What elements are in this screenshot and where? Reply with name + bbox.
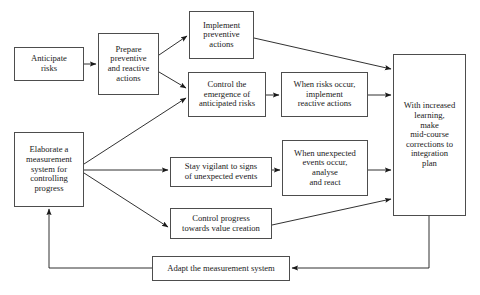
node-control-progress-towards-value-creation[interactable]: Control progress towards value creation xyxy=(170,208,272,239)
node-label-control-emergence-of-anticipated-risks: Control the emergence of anticipated ris… xyxy=(189,80,265,109)
node-label-when-unexpected-events-occur-analyse-and-react: When unexpected events occur, analyse an… xyxy=(283,149,367,188)
edge-with-increased-learning-make-mid-course-corrections-to-adapt-the-measurement-system xyxy=(292,216,429,268)
node-when-unexpected-events-occur-analyse-and-react[interactable]: When unexpected events occur, analyse an… xyxy=(282,140,368,196)
node-label-elaborate-a-measurement-system: Elaborate a measurement system for contr… xyxy=(15,145,83,193)
node-with-increased-learning-make-mid-course-corrections[interactable]: With increased learning, make mid-course… xyxy=(393,54,466,216)
node-implement-preventive-actions[interactable]: Implement preventive actions xyxy=(189,11,254,59)
node-stay-vigilant-to-signs-of-unexpected-events[interactable]: Stay vigilant to signs of unexpected eve… xyxy=(170,157,272,187)
edge-prepare-preventive-and-reactive-actions-to-control-emergence-of-anticipated-risks xyxy=(159,72,186,88)
edge-prepare-preventive-and-reactive-actions-to-implement-preventive-actions xyxy=(159,36,187,55)
node-label-when-risks-occur-implement-reactive-actions: When risks occur, implement reactive act… xyxy=(282,80,367,109)
edge-adapt-the-measurement-system-to-elaborate-a-measurement-system xyxy=(49,209,152,268)
flowchart-diagram: Anticipate risksPrepare preventive and r… xyxy=(0,0,480,295)
node-label-stay-vigilant-to-signs-of-unexpected-events: Stay vigilant to signs of unexpected eve… xyxy=(171,162,271,181)
node-label-implement-preventive-actions: Implement preventive actions xyxy=(190,21,253,50)
node-prepare-preventive-and-reactive-actions[interactable]: Prepare preventive and reactive actions xyxy=(98,33,159,95)
edge-elaborate-a-measurement-system-to-control-progress-towards-value-creation xyxy=(84,173,168,227)
node-when-risks-occur-implement-reactive-actions[interactable]: When risks occur, implement reactive act… xyxy=(281,72,368,117)
node-adapt-the-measurement-system[interactable]: Adapt the measurement system xyxy=(152,256,290,281)
node-anticipate-risks[interactable]: Anticipate risks xyxy=(14,47,84,81)
edge-implement-preventive-actions-to-with-increased-learning-make-mid-course-corrections xyxy=(254,38,391,69)
node-elaborate-a-measurement-system[interactable]: Elaborate a measurement system for contr… xyxy=(14,132,84,207)
node-label-with-increased-learning-make-mid-course-corrections: With increased learning, make mid-course… xyxy=(394,101,465,168)
node-control-emergence-of-anticipated-risks[interactable]: Control the emergence of anticipated ris… xyxy=(188,72,266,117)
node-label-adapt-the-measurement-system: Adapt the measurement system xyxy=(153,264,289,274)
edge-control-progress-towards-value-creation-to-with-increased-learning-make-mid-course-corrections xyxy=(272,199,391,225)
node-label-prepare-preventive-and-reactive-actions: Prepare preventive and reactive actions xyxy=(99,45,158,84)
node-label-control-progress-towards-value-creation: Control progress towards value creation xyxy=(171,214,271,233)
edge-elaborate-a-measurement-system-to-control-emergence-of-anticipated-risks xyxy=(84,98,186,164)
node-label-anticipate-risks: Anticipate risks xyxy=(15,54,83,73)
